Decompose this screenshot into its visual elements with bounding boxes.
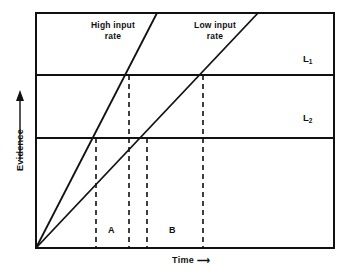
- threshold-label-l2-letter: L: [303, 112, 309, 123]
- evidence-accumulation-figure: Evidence Time ⟶ High input rate Low inpu…: [0, 0, 349, 279]
- threshold-label-l1: L1: [303, 53, 312, 64]
- x-axis-arrow-icon: ⟶: [197, 255, 210, 265]
- y-axis-title-container: Evidence: [9, 90, 31, 210]
- y-axis-title: Evidence: [15, 129, 25, 171]
- x-axis-title-text: Time: [172, 255, 194, 265]
- series-label-high-input-rate: High input rate: [78, 20, 148, 42]
- threshold-label-l2-subscript: 2: [309, 117, 313, 124]
- region-label-a: A: [108, 225, 115, 235]
- series-label-low-input-rate: Low input rate: [180, 20, 250, 42]
- threshold-label-l2: L2: [303, 112, 312, 123]
- threshold-label-l1-letter: L: [303, 53, 309, 64]
- plot-canvas: [0, 0, 349, 279]
- x-axis-title: Time ⟶: [172, 255, 210, 265]
- region-label-b: B: [169, 225, 176, 235]
- threshold-label-l1-subscript: 1: [309, 58, 313, 65]
- plot-frame: [36, 13, 334, 248]
